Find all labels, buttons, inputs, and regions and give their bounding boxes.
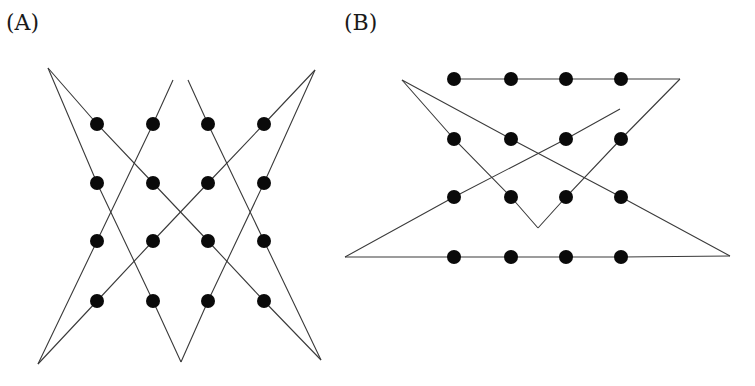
grid-dot xyxy=(447,132,461,146)
grid-dot xyxy=(559,190,573,204)
grid-dot xyxy=(559,132,573,146)
line-segment xyxy=(402,80,538,228)
line-segment xyxy=(181,70,315,362)
panel-a-diagram xyxy=(38,68,321,364)
line-segment xyxy=(538,79,680,228)
grid-dot xyxy=(90,117,104,131)
grid-dot xyxy=(201,176,215,190)
grid-dot xyxy=(614,132,628,146)
line-segment xyxy=(48,68,321,360)
grid-dot xyxy=(504,190,518,204)
grid-dot xyxy=(447,190,461,204)
grid-dot xyxy=(90,294,104,308)
grid-dot xyxy=(504,132,518,146)
grid-dot xyxy=(504,250,518,264)
grid-dot xyxy=(201,234,215,248)
dot-puzzle-diagram xyxy=(0,0,755,386)
grid-dot xyxy=(146,176,160,190)
grid-dot xyxy=(146,294,160,308)
line-segment xyxy=(48,68,181,362)
line-segment xyxy=(345,256,730,257)
grid-dot xyxy=(257,117,271,131)
grid-dot xyxy=(504,72,518,86)
grid-dot xyxy=(614,72,628,86)
grid-dot xyxy=(559,72,573,86)
line-segment xyxy=(402,80,730,256)
grid-dot xyxy=(257,294,271,308)
grid-dot xyxy=(146,117,160,131)
grid-dot xyxy=(257,234,271,248)
grid-dot xyxy=(614,190,628,204)
panel-b-diagram xyxy=(345,72,730,264)
grid-dot xyxy=(447,250,461,264)
grid-dot xyxy=(146,234,160,248)
grid-dot xyxy=(90,176,104,190)
grid-dot xyxy=(447,72,461,86)
grid-dot xyxy=(257,176,271,190)
grid-dot xyxy=(614,250,628,264)
grid-dot xyxy=(201,294,215,308)
line-segment xyxy=(38,70,315,364)
grid-dot xyxy=(559,250,573,264)
grid-dot xyxy=(90,234,104,248)
grid-dot xyxy=(201,117,215,131)
